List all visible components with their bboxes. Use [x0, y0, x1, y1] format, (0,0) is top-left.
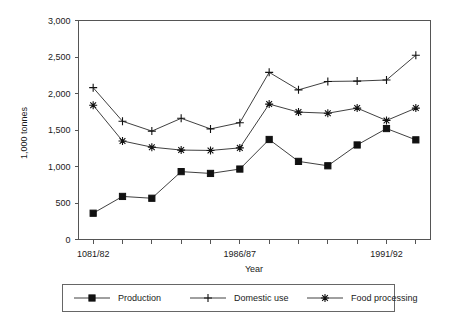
marker-asterisk — [321, 294, 329, 302]
series-food-processing — [89, 100, 420, 154]
marker-square — [325, 163, 331, 169]
marker-asterisk — [177, 146, 185, 154]
y-tick-label: 3,000 — [48, 16, 71, 26]
marker-plus — [265, 68, 273, 76]
marker-asterisk — [236, 144, 244, 152]
marker-square — [89, 295, 95, 301]
marker-square — [119, 193, 125, 199]
marker-asterisk — [265, 100, 273, 108]
legend-label: Production — [118, 293, 161, 303]
marker-asterisk — [324, 109, 332, 117]
line-chart: 1,000 tonnes 05001,0001,5002,0002,5003,0… — [0, 0, 456, 320]
series-polyline — [93, 55, 416, 131]
y-tick-label: 2,500 — [48, 52, 71, 62]
marker-square — [295, 158, 301, 164]
chart-figure: 1,000 tonnes 05001,0001,5002,0002,5003,0… — [0, 0, 456, 320]
legend-box — [63, 285, 395, 312]
marker-plus — [177, 114, 185, 122]
x-tick-label: 1081/82 — [77, 249, 110, 259]
marker-plus — [207, 125, 215, 133]
series-production — [90, 125, 419, 216]
y-tick-label: 2,000 — [48, 89, 71, 99]
marker-square — [413, 137, 419, 143]
series-polyline — [93, 129, 416, 214]
y-axis-title-group: 1,000 tonnes — [19, 106, 29, 159]
marker-asterisk — [207, 146, 215, 154]
marker-square — [383, 125, 389, 131]
legend: ProductionDomestic useFood processing — [74, 293, 418, 303]
marker-square — [266, 136, 272, 142]
axis-frame-lines — [79, 21, 431, 240]
marker-square — [237, 166, 243, 172]
x-tick-label: 1991/92 — [370, 249, 403, 259]
y-tick-label: 1,000 — [48, 162, 71, 172]
marker-square — [178, 169, 184, 175]
marker-asterisk — [412, 104, 420, 112]
series-layer — [89, 51, 420, 216]
legend-item-production[interactable]: Production — [74, 293, 161, 303]
marker-square — [149, 195, 155, 201]
series-domestic-use — [89, 51, 420, 135]
marker-plus — [236, 119, 244, 127]
legend-item-domestic-use[interactable]: Domestic use — [190, 293, 289, 303]
marker-asterisk — [353, 104, 361, 112]
legend-item-food-processing[interactable]: Food processing — [307, 293, 418, 303]
x-tick-label: 1986/87 — [224, 249, 257, 259]
marker-plus — [353, 77, 361, 85]
marker-square — [354, 142, 360, 148]
marker-plus — [148, 127, 156, 135]
marker-square — [90, 210, 96, 216]
marker-plus — [324, 77, 332, 85]
marker-asterisk — [89, 101, 97, 109]
y-tick-label: 1,500 — [48, 125, 71, 135]
y-axis-title: 1,000 tonnes — [19, 106, 29, 159]
x-axis-title: Year — [245, 264, 263, 274]
x-axis-ticks: 1081/821986/871991/92 — [77, 240, 416, 259]
marker-plus — [204, 294, 212, 302]
marker-square — [207, 170, 213, 176]
y-tick-label: 0 — [65, 235, 70, 245]
legend-label: Food processing — [351, 293, 418, 303]
marker-asterisk — [295, 108, 303, 116]
legend-label: Domestic use — [234, 293, 289, 303]
marker-asterisk — [148, 143, 156, 151]
marker-asterisk — [383, 117, 391, 125]
y-tick-label: 500 — [55, 198, 70, 208]
marker-asterisk — [119, 137, 127, 145]
y-axis-ticks: 05001,0001,5002,0002,5003,000 — [48, 16, 79, 245]
marker-plus — [295, 86, 303, 94]
plot-frame — [79, 21, 431, 240]
